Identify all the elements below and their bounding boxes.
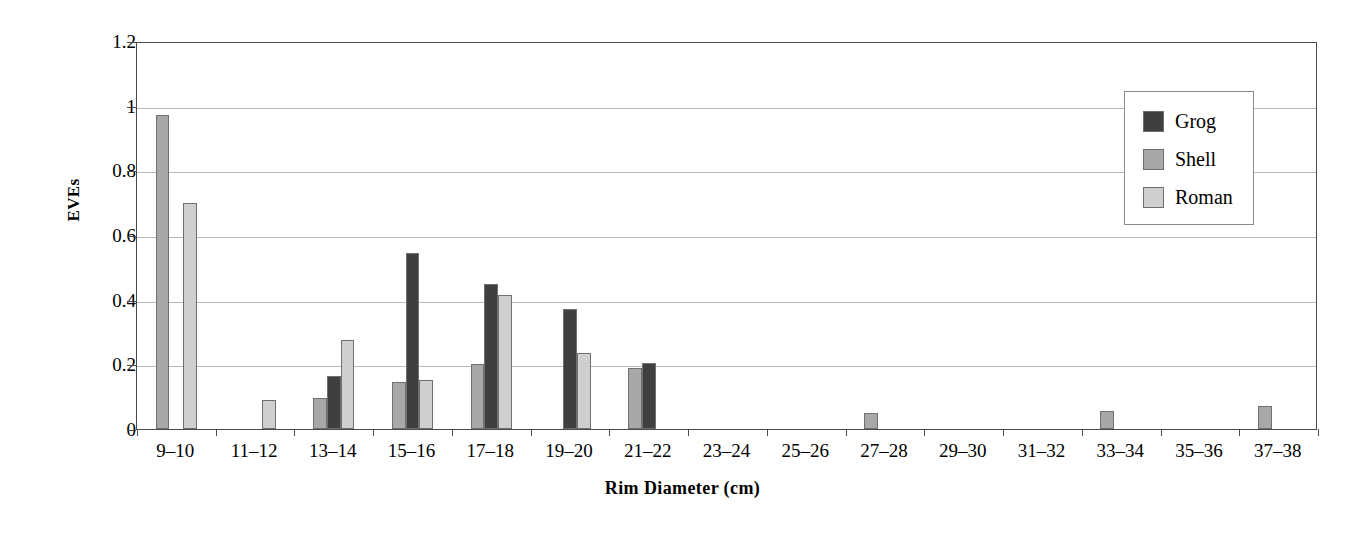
x-tick-mark <box>294 429 295 436</box>
x-tick-mark <box>452 429 453 436</box>
x-tick-mark <box>688 429 689 436</box>
x-tick-mark <box>1161 429 1162 436</box>
y-tick-mark <box>127 430 136 431</box>
x-tick-label: 17–18 <box>467 440 515 462</box>
x-tick-label: 31–32 <box>1018 440 1066 462</box>
x-tick-mark <box>1003 429 1004 436</box>
legend-swatch-grog <box>1143 111 1164 132</box>
bar-roman-11-12 <box>262 400 276 429</box>
bar-shell-9-10 <box>156 115 170 429</box>
x-tick-mark <box>609 429 610 436</box>
bar-grog-17-18 <box>484 284 498 430</box>
x-tick-label: 29–30 <box>939 440 987 462</box>
x-tick-mark <box>846 429 847 436</box>
x-tick-label: 23–24 <box>703 440 751 462</box>
bar-shell-15-16 <box>392 382 406 429</box>
x-axis-title: Rim Diameter (cm) <box>0 478 1365 499</box>
bar-shell-37-38 <box>1258 406 1272 429</box>
x-tick-mark <box>373 429 374 436</box>
bar-shell-13-14 <box>313 398 327 429</box>
x-tick-label: 37–38 <box>1254 440 1302 462</box>
x-tick-mark <box>531 429 532 436</box>
y-tick-mark <box>127 301 136 302</box>
legend-item-roman: Roman <box>1143 178 1253 216</box>
legend-swatch-shell <box>1143 149 1164 170</box>
bar-roman-9-10 <box>183 203 197 429</box>
y-axis-ticks: 00.20.40.60.811.2 <box>60 42 136 430</box>
legend-label: Roman <box>1175 187 1233 207</box>
x-tick-label: 11–12 <box>231 440 278 462</box>
x-tick-mark <box>767 429 768 436</box>
bar-roman-17-18 <box>498 295 512 429</box>
bar-roman-15-16 <box>419 380 433 429</box>
x-tick-mark <box>137 429 138 436</box>
bar-roman-19-20 <box>577 353 591 429</box>
x-tick-label: 35–36 <box>1175 440 1223 462</box>
bar-shell-33-34 <box>1100 411 1114 429</box>
bar-grog-15-16 <box>406 253 420 429</box>
x-tick-label: 15–16 <box>388 440 436 462</box>
bar-roman-13-14 <box>341 340 355 429</box>
bar-shell-17-18 <box>471 364 485 429</box>
bar-grog-13-14 <box>327 376 341 429</box>
chart-legend: GrogShellRoman <box>1124 91 1254 225</box>
x-tick-mark <box>1082 429 1083 436</box>
gridline <box>137 237 1316 238</box>
bar-shell-21-22 <box>628 368 642 429</box>
gridline <box>137 302 1316 303</box>
legend-label: Shell <box>1175 149 1216 169</box>
x-tick-label: 13–14 <box>309 440 357 462</box>
y-tick-mark <box>127 236 136 237</box>
legend-item-grog: Grog <box>1143 102 1253 140</box>
x-tick-label: 21–22 <box>624 440 672 462</box>
x-axis-tick-labels: 9–1011–1213–1415–1617–1819–2021–2223–242… <box>136 440 1317 470</box>
x-tick-label: 27–28 <box>860 440 908 462</box>
bar-chart: EVEs 00.20.40.60.811.2 9–1011–1213–1415–… <box>0 0 1365 539</box>
y-tick-mark <box>127 107 136 108</box>
legend-item-shell: Shell <box>1143 140 1253 178</box>
legend-swatch-roman <box>1143 187 1164 208</box>
x-tick-label: 19–20 <box>545 440 593 462</box>
x-tick-mark <box>1239 429 1240 436</box>
bar-shell-27-28 <box>864 413 878 429</box>
legend-label: Grog <box>1175 111 1216 131</box>
x-tick-mark <box>924 429 925 436</box>
bar-grog-19-20 <box>563 309 577 429</box>
x-tick-mark <box>216 429 217 436</box>
bar-grog-21-22 <box>642 363 656 429</box>
x-tick-label: 25–26 <box>781 440 829 462</box>
y-tick-mark <box>127 42 136 43</box>
x-tick-label: 9–10 <box>156 440 194 462</box>
y-tick-mark <box>127 365 136 366</box>
x-tick-mark <box>1318 429 1319 436</box>
gridline <box>137 366 1316 367</box>
y-tick-mark <box>127 171 136 172</box>
x-tick-label: 33–34 <box>1096 440 1144 462</box>
